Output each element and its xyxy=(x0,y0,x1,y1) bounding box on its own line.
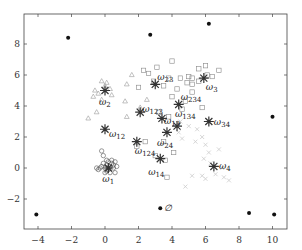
x-tick-label: −4 xyxy=(31,235,45,245)
empty-set-label: ∅ xyxy=(164,203,173,213)
cross-point xyxy=(204,177,208,181)
square-point xyxy=(185,81,189,85)
outlier-point xyxy=(271,115,275,119)
square-point xyxy=(170,95,174,99)
cluster-label: ω4 xyxy=(219,161,231,173)
cluster-center-asterisk xyxy=(172,121,182,131)
x-tick-label: 10 xyxy=(267,235,279,245)
y-tick-label: 2 xyxy=(14,132,20,142)
y-tick-label: 6 xyxy=(14,70,20,80)
cross-point xyxy=(227,178,231,182)
cluster-label: ω124 xyxy=(135,146,156,158)
cross-point xyxy=(207,151,211,155)
cluster-center-asterisk xyxy=(162,127,172,137)
series-cluster-1-circles xyxy=(94,149,119,175)
outlier-point xyxy=(158,206,162,210)
x-tick-label: −2 xyxy=(65,235,78,245)
square-point xyxy=(200,105,204,109)
triangle-point xyxy=(86,116,91,120)
square-point xyxy=(190,76,194,80)
triangle-point xyxy=(123,99,128,103)
triangle-point xyxy=(91,94,96,98)
cluster-label: ω24 xyxy=(157,138,174,150)
square-point xyxy=(155,65,159,69)
square-point xyxy=(146,71,150,75)
cross-point xyxy=(214,172,218,176)
cluster-label: ω3 xyxy=(206,82,218,94)
triangle-point xyxy=(129,72,134,76)
cross-point xyxy=(200,135,204,139)
outlier-point xyxy=(66,36,70,40)
square-point xyxy=(217,68,221,72)
cluster-label: ω123 xyxy=(142,104,163,116)
outlier-point xyxy=(272,213,276,217)
cluster-label: ω2 xyxy=(99,97,111,109)
cross-point xyxy=(202,157,206,161)
series-cluster-3-squares xyxy=(135,59,221,180)
y-tick-label: −2 xyxy=(7,194,20,204)
circle-point xyxy=(101,153,105,157)
square-point xyxy=(178,76,182,80)
series-outliers xyxy=(34,22,276,217)
triangle-point xyxy=(109,93,114,97)
cross-point xyxy=(204,143,208,147)
square-point xyxy=(143,139,147,143)
square-point xyxy=(210,74,214,78)
x-tick-label: 0 xyxy=(102,235,108,245)
outlier-point xyxy=(207,22,211,26)
square-point xyxy=(136,85,140,89)
plot-area: ω2ω12ω1ω23ω3ω123ω13ω234ω34ω134ω24ω124ω14… xyxy=(34,22,276,217)
x-tick-label: 6 xyxy=(203,235,209,245)
square-point xyxy=(203,64,207,68)
cluster-label: ω34 xyxy=(214,117,231,129)
circle-point xyxy=(113,170,117,174)
cluster-center-asterisk xyxy=(100,86,110,96)
triangle-point xyxy=(124,114,129,118)
axes-frame xyxy=(24,14,287,229)
outlier-point xyxy=(34,213,38,217)
triangle-point xyxy=(93,88,98,92)
x-tick-label: 8 xyxy=(236,235,242,245)
cross-point xyxy=(180,137,184,141)
y-tick-label: 0 xyxy=(14,163,20,173)
outlier-point xyxy=(148,33,152,37)
outlier-point xyxy=(247,211,251,215)
square-point xyxy=(165,175,169,179)
cluster-label: ω1 xyxy=(102,174,114,186)
square-point xyxy=(170,59,174,63)
cluster-label: ω134 xyxy=(175,109,196,121)
cluster-center-asterisk xyxy=(103,163,113,173)
cross-point xyxy=(193,140,197,144)
circle-point xyxy=(99,149,103,153)
cluster-label: ω23 xyxy=(157,72,173,84)
x-axis: −4−20246810 xyxy=(31,14,278,245)
square-point xyxy=(171,150,175,154)
triangle-point xyxy=(124,82,129,86)
square-point xyxy=(190,82,194,86)
scatter-chart: ω2ω12ω1ω23ω3ω123ω13ω234ω34ω134ω24ω124ω14… xyxy=(0,0,302,250)
cluster-center-asterisk xyxy=(204,117,214,127)
square-point xyxy=(141,68,145,72)
y-tick-label: 4 xyxy=(14,101,20,111)
cross-point xyxy=(222,175,226,179)
square-point xyxy=(175,87,179,91)
y-axis: −202468 xyxy=(7,39,287,204)
cross-point xyxy=(183,185,187,189)
cluster-label: ω14 xyxy=(148,167,165,179)
y-tick-label: 8 xyxy=(14,39,20,49)
series-cluster-centers: ω2ω12ω1ω23ω3ω123ω13ω234ω34ω134ω24ω124ω14… xyxy=(99,72,231,186)
cluster-label: ω12 xyxy=(109,129,125,141)
triangle-point xyxy=(99,79,104,83)
square-point xyxy=(197,67,201,71)
cross-point xyxy=(217,147,221,151)
x-tick-label: 4 xyxy=(169,235,175,245)
series-cluster-4-light-x xyxy=(177,120,231,189)
x-tick-label: 2 xyxy=(136,235,142,245)
cross-point xyxy=(195,127,199,131)
square-point xyxy=(190,90,194,94)
triangle-point xyxy=(144,97,149,101)
cluster-center-asterisk xyxy=(155,154,165,164)
cross-point xyxy=(187,124,191,128)
cluster-center-asterisk xyxy=(209,161,219,171)
cross-point xyxy=(190,174,194,178)
